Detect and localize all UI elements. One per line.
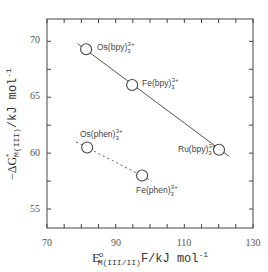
data-point-marker — [82, 142, 93, 153]
y-tick-labels: 55 60 65 70 — [30, 34, 40, 214]
chart: 70 90 110 130 55 60 65 70 Os(bpy)33+ Fe(… — [0, 0, 268, 272]
data-markers — [81, 44, 225, 181]
y-tick-label: 60 — [30, 147, 40, 158]
x-tick-label: 110 — [177, 237, 192, 248]
x-axis-label: EoM(III/II)F/kJ mol-1 — [92, 250, 208, 267]
y-axis-label: −ΔG*M(III)/kJ mol-1 — [4, 68, 21, 180]
y-tick-label: 65 — [30, 90, 40, 101]
x-tick-label: 130 — [246, 237, 261, 248]
point-label-os-phen: Os(phen)33+ — [80, 128, 123, 141]
data-point-marker — [137, 170, 148, 181]
bpy-fit-line — [78, 44, 230, 157]
point-label-ru-bpy: Ru(bpy)33+ — [178, 143, 216, 156]
data-point-marker — [127, 79, 138, 90]
x-tick-labels: 70 90 110 130 — [42, 237, 261, 248]
plot-frame — [47, 19, 253, 228]
y-tick-label: 70 — [30, 34, 40, 45]
point-label-os-bpy: Os(bpy)33+ — [97, 41, 135, 54]
data-point-marker — [81, 44, 92, 55]
point-label-fe-bpy: Fe(bpy)33+ — [142, 77, 179, 90]
point-label-fe-phen: Fe(phen)33+ — [136, 184, 178, 197]
x-tick-label: 90 — [111, 237, 121, 248]
axis-ticks — [47, 19, 253, 228]
x-tick-label: 70 — [42, 237, 52, 248]
y-tick-label: 55 — [30, 203, 40, 214]
